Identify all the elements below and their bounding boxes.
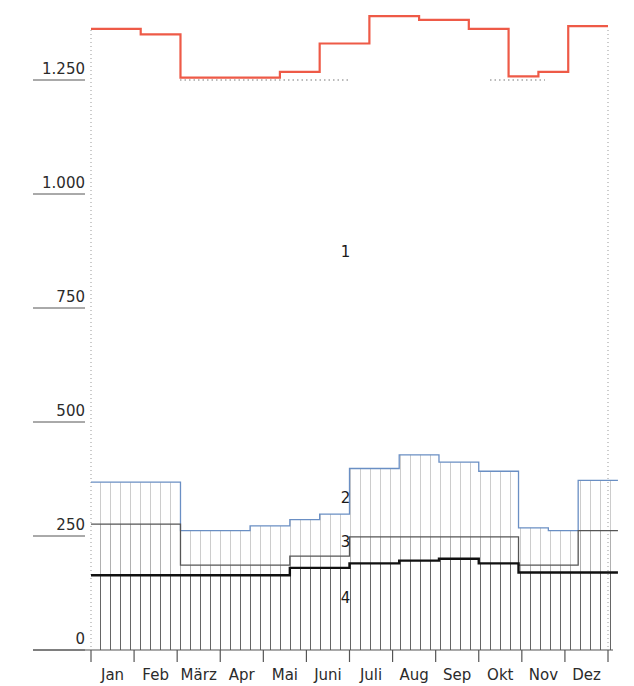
x-tick-label-juni: Juni: [313, 666, 342, 684]
series-annotation-3: 3: [341, 533, 351, 551]
y-axis-ticks: 02505007501.0001.250: [33, 60, 85, 650]
x-tick-label-feb: Feb: [142, 666, 169, 684]
x-tick-label-sep: Sep: [443, 666, 471, 684]
chart-container: 02505007501.0001.250 JanFebMärzAprMaiJun…: [0, 0, 634, 686]
x-tick-label-aug: Aug: [399, 666, 428, 684]
chart-canvas: 02505007501.0001.250 JanFebMärzAprMaiJun…: [0, 0, 634, 686]
y-tick-label: 500: [56, 402, 85, 420]
stacked-area-series: [91, 455, 618, 650]
y-tick-label: 1.000: [42, 174, 85, 192]
y-tick-label: 0: [75, 630, 85, 648]
x-tick-label-apr: Apr: [229, 666, 256, 684]
x-tick-label-dez: Dez: [572, 666, 601, 684]
x-tick-label-jan: Jan: [100, 666, 124, 684]
y-tick-label: 1.250: [42, 60, 85, 78]
x-tick-label-juli: Juli: [359, 666, 382, 684]
y-tick-label: 250: [56, 516, 85, 534]
series-annotation-1: 1: [341, 243, 351, 261]
y-tick-label: 750: [56, 288, 85, 306]
x-tick-label-märz: März: [181, 666, 217, 684]
x-tick-label-nov: Nov: [529, 666, 558, 684]
x-axis: JanFebMärzAprMaiJuniJuliAugSepOktNovDez: [33, 650, 613, 684]
x-tick-label-mai: Mai: [272, 666, 298, 684]
line-series-1: [91, 16, 608, 78]
line-series: [91, 16, 608, 78]
series-annotation-4: 4: [341, 589, 351, 607]
x-tick-label-okt: Okt: [487, 666, 513, 684]
series-annotation-2: 2: [341, 489, 351, 507]
